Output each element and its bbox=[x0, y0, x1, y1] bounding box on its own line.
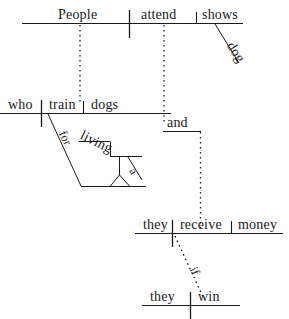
word-win: win bbox=[198, 290, 220, 304]
word-and: and bbox=[167, 116, 188, 130]
word-receive: receive bbox=[180, 218, 222, 232]
word-attend: attend bbox=[141, 8, 176, 22]
word-who: who bbox=[8, 98, 33, 112]
word-they-receive-subject: they bbox=[143, 218, 168, 232]
word-train: train bbox=[49, 98, 76, 112]
sentence-diagram: People attend shows dog who train dogs f… bbox=[0, 0, 289, 319]
word-they-win-subject: they bbox=[150, 290, 175, 304]
word-shows: shows bbox=[202, 8, 238, 22]
word-dogs: dogs bbox=[91, 98, 118, 112]
diagram-lines bbox=[0, 0, 289, 319]
word-people: People bbox=[58, 8, 97, 22]
word-money: money bbox=[238, 218, 277, 232]
gerund-leg-left bbox=[110, 175, 120, 187]
preposition-line-for bbox=[48, 114, 81, 186]
